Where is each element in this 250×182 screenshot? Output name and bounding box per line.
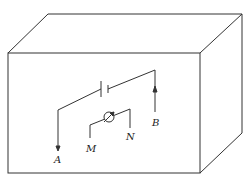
- label-M: M: [85, 143, 97, 154]
- diagram-canvas: A B M N: [0, 0, 250, 182]
- label-A: A: [53, 154, 61, 165]
- wire-to-B: [108, 70, 155, 112]
- label-B: B: [151, 117, 159, 128]
- arrow-B-icon: [153, 86, 157, 92]
- wire-to-A: [58, 89, 101, 148]
- circuit: [56, 70, 157, 151]
- box-front-face: [8, 53, 200, 173]
- box: [8, 14, 242, 173]
- box-right-face: [200, 14, 242, 173]
- box-top-face: [8, 14, 242, 53]
- label-N: N: [125, 131, 136, 142]
- arrow-A-icon: [56, 146, 60, 151]
